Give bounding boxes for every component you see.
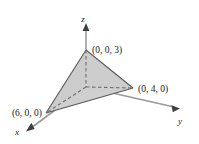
vertex-label-y-intercept: (0, 4, 0) [138, 84, 168, 95]
y-axis-label: y [177, 116, 182, 126]
z-axis-label: z [80, 14, 85, 24]
vertex-label-z-intercept: (0, 0, 3) [92, 45, 122, 56]
coordinate-system-diagram: z y x (0, 0, 3) (0, 4, 0) (6, 0, 0) [0, 0, 199, 144]
x-axis-label: x [14, 127, 19, 137]
vertex-label-x-intercept: (6, 0, 0) [12, 108, 42, 119]
